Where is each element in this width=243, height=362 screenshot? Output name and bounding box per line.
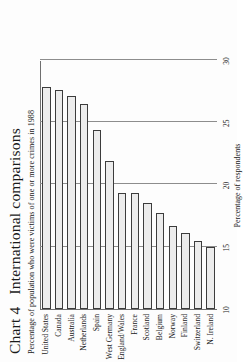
bar-n-ireland: [206, 247, 214, 309]
bar-norway: [169, 226, 177, 309]
bar-netherlands: [80, 104, 88, 309]
chart-subtitle: Percentage of population who were victim…: [27, 10, 36, 354]
category-label: Norway: [169, 314, 177, 338]
bar-england-wales: [118, 193, 126, 309]
value-tick-label: 10: [222, 306, 231, 313]
bar-west-germany: [105, 161, 113, 309]
chart-number: Chart 4: [6, 307, 23, 354]
plot-area: [40, 61, 217, 310]
bar-finland: [181, 233, 189, 309]
category-label: N. Ireland: [207, 314, 215, 345]
bar-switzerland: [194, 241, 202, 309]
chart-title-text: International comparisons: [6, 128, 23, 294]
bar-australia: [67, 96, 75, 309]
bar-scotland: [143, 203, 151, 309]
gridline-30: [40, 59, 217, 60]
value-tick-label: 15: [222, 244, 231, 251]
category-label: England/Wales: [118, 314, 126, 360]
category-label: Spain: [93, 314, 101, 331]
bar-canada: [55, 90, 63, 309]
category-label: Finland: [182, 314, 190, 337]
value-tick-label: 20: [222, 182, 231, 189]
category-label: Switzerland: [194, 314, 202, 350]
page-title: Chart 4International comparisons: [6, 10, 24, 354]
category-label: Canada: [55, 314, 63, 337]
title-block: Chart 4International comparisons Percent…: [6, 10, 36, 354]
bar-france: [131, 193, 139, 309]
category-label: Australia: [68, 314, 76, 342]
value-axis-title: Percentage of respondents: [233, 144, 237, 228]
category-label: United States: [43, 314, 51, 355]
category-label: Belgium: [156, 314, 164, 340]
bar-belgium: [156, 213, 164, 309]
value-tick-label: 30: [222, 57, 231, 64]
category-label: Scotland: [144, 314, 152, 341]
rotated-figure-wrapper: Chart 4International comparisons Percent…: [0, 0, 237, 362]
category-label: West Germany: [106, 314, 114, 359]
bar-united-states: [42, 87, 50, 309]
category-label: Netherlands: [80, 314, 88, 351]
category-axis: United StatesCanadaAustraliaNetherlandsS…: [40, 314, 217, 362]
category-label: France: [131, 314, 139, 335]
bar-spain: [93, 130, 101, 309]
chart-figure: Chart 4International comparisons Percent…: [0, 0, 237, 362]
value-tick-label: 25: [222, 120, 231, 127]
